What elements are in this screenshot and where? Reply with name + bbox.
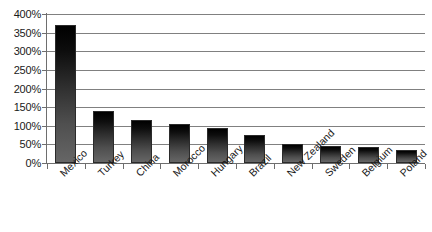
bar-chart: 400%350%300%250%200%150%100%50%0% Mexico… [0,0,432,232]
x-axis-category-label: Belgium [360,144,395,179]
x-axis: MexicoTurkeyChinaMoroccoHungaryBrazilNew… [0,0,432,232]
y-axis-tick [42,144,47,145]
y-axis-tick [42,51,47,52]
x-axis-tick [198,164,199,169]
x-axis-tick [387,164,388,169]
x-axis-tick [425,164,426,169]
y-axis-tick [42,14,47,15]
x-axis-category-label: Brazil [247,152,273,178]
x-axis-tick [274,164,275,169]
x-axis-category-label: Sweden [323,144,358,179]
x-axis-category-label: Hungary [209,143,245,179]
y-axis-tick [42,89,47,90]
x-axis-tick [160,164,161,169]
y-axis-tick [42,70,47,71]
x-axis-tick [47,164,48,169]
x-axis-tick [312,164,313,169]
x-axis-category-label: China [134,152,161,179]
x-axis-category-label: Morocco [171,143,207,179]
x-axis-category-label: Turkey [96,149,126,179]
y-axis-tick [42,107,47,108]
x-axis-tick [349,164,350,169]
y-axis-tick [42,126,47,127]
x-axis-tick [123,164,124,169]
x-axis-tick [236,164,237,169]
y-axis-tick [42,33,47,34]
x-axis-tick [85,164,86,169]
